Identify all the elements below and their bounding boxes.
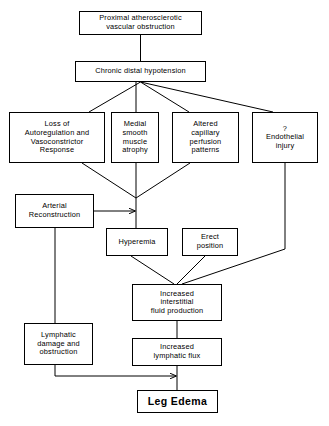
edge-loss-to-junction xyxy=(82,163,136,198)
node-arterial-reconstruction: Arterial Reconstruction xyxy=(15,194,94,228)
node-increased-interstitial-fluid-production: Increased interstitial fluid production xyxy=(132,284,222,321)
edge-hypotension-to-altered xyxy=(141,82,190,112)
edge-lymphdamage-to-legedema xyxy=(55,365,176,376)
node-medial-smooth-muscle-atrophy: Medial smooth muscle atrophy xyxy=(111,112,159,163)
edge-hyperemia-to-interstitial xyxy=(131,256,174,284)
edge-erect-to-interstitial xyxy=(177,256,205,284)
node-lymphatic-damage-and-obstruction: Lymphatic damage and obstruction xyxy=(24,323,93,365)
node-loss-of-autoregulation: Loss of Autoregulation and Vasoconstrict… xyxy=(9,112,105,163)
node-proximal-atherosclerotic-vascular-obstruction: Proximal atherosclerotic vascular obstru… xyxy=(79,11,202,35)
edge-altered-to-junction xyxy=(136,163,190,198)
edge-hypotension-to-loss xyxy=(89,82,141,112)
node-erect-position: Erect position xyxy=(182,228,238,256)
node-chronic-distal-hypotension: Chronic distal hypotension xyxy=(75,61,206,82)
node-hyperemia: Hyperemia xyxy=(106,228,168,256)
node-leg-edema: Leg Edema xyxy=(137,390,218,413)
edge-endothelial-to-interstitial xyxy=(182,163,285,284)
flowchart-diagram: Proximal atherosclerotic vascular obstru… xyxy=(0,0,329,426)
node-altered-capillary-perfusion-patterns: Altered capillary perfusion patterns xyxy=(172,112,239,163)
node-endothelial-injury: ? Endothelial injury xyxy=(252,112,318,163)
edge-hypotension-to-endothelial xyxy=(141,82,274,112)
node-increased-lymphatic-flux: Increased lymphatic flux xyxy=(132,338,222,366)
